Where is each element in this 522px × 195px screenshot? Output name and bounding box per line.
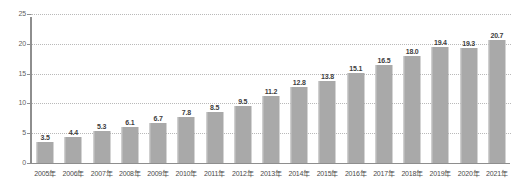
bar-value-label: 19.3 (462, 40, 475, 47)
x-axis-line (31, 163, 510, 164)
bar-group: 19.3 (455, 14, 483, 163)
bar[interactable] (65, 137, 82, 163)
x-tick-label: 2020年 (455, 168, 483, 178)
bar[interactable] (121, 127, 138, 163)
bar[interactable] (37, 142, 54, 163)
bar[interactable] (206, 112, 223, 163)
bar-value-label: 18.0 (406, 48, 419, 55)
bar-value-label: 6.1 (125, 119, 134, 126)
bar-value-label: 6.7 (153, 115, 162, 122)
bar-group: 11.2 (257, 14, 285, 163)
x-tick-label: 2016年 (342, 168, 370, 178)
bar[interactable] (432, 47, 449, 163)
bar[interactable] (488, 40, 505, 163)
x-tick-label: 2019年 (426, 168, 454, 178)
x-axis-labels: 2005年2006年2007年2008年2009年2010年2011年2012年… (31, 168, 511, 186)
bar-value-label: 13.8 (321, 73, 334, 80)
x-tick-label: 2009年 (144, 168, 172, 178)
x-tick-label: 2017年 (370, 168, 398, 178)
bars-layer: 3.54.45.36.16.77.88.59.511.212.813.815.1… (31, 14, 511, 163)
bar-group: 16.5 (370, 14, 398, 163)
bar-value-label: 11.2 (265, 88, 277, 95)
bar-value-label: 20.7 (490, 32, 503, 39)
bar-value-label: 15.1 (349, 65, 362, 72)
y-tick-label: 5 (6, 129, 26, 136)
x-tick-label: 2015年 (313, 168, 341, 178)
x-tick-label: 2021年 (483, 168, 511, 178)
x-tick-label: 2008年 (116, 168, 144, 178)
bar-group: 8.5 (200, 14, 228, 163)
bar[interactable] (262, 96, 279, 163)
bar-value-label: 7.8 (182, 109, 191, 116)
bar-value-label: 8.5 (210, 104, 219, 111)
x-tick-label: 2006年 (59, 168, 87, 178)
bar-group: 9.5 (229, 14, 257, 163)
bar[interactable] (234, 106, 251, 163)
bar-group: 5.3 (87, 14, 115, 163)
bar[interactable] (93, 131, 110, 163)
bar-value-label: 19.4 (434, 39, 447, 46)
bar-group: 6.7 (144, 14, 172, 163)
bar-value-label: 5.3 (97, 123, 106, 130)
x-tick-label: 2010年 (172, 168, 200, 178)
bar-group: 7.8 (172, 14, 200, 163)
y-tick-label: 20 (6, 40, 26, 47)
bar[interactable] (291, 87, 308, 163)
bar-group: 3.5 (31, 14, 59, 163)
x-tick-label: 2013年 (257, 168, 285, 178)
x-tick-label: 2005年 (31, 168, 59, 178)
bar-value-label: 12.8 (293, 79, 306, 86)
bar-group: 13.8 (313, 14, 341, 163)
bar[interactable] (319, 81, 336, 163)
bar[interactable] (347, 73, 364, 163)
bar-group: 19.4 (426, 14, 454, 163)
bar-group: 12.8 (285, 14, 313, 163)
x-tick-label: 2012年 (229, 168, 257, 178)
bar-chart: 0510152025 3.54.45.36.16.77.88.59.511.21… (0, 0, 522, 195)
bar-group: 15.1 (342, 14, 370, 163)
bar-group: 6.1 (116, 14, 144, 163)
bar-value-label: 4.4 (69, 129, 78, 136)
y-tick-label: 10 (6, 99, 26, 106)
bar-value-label: 3.5 (41, 134, 50, 141)
bar[interactable] (460, 48, 477, 163)
x-tick-label: 2018年 (398, 168, 426, 178)
bar-group: 18.0 (398, 14, 426, 163)
y-tick-label: 0 (6, 159, 26, 166)
bar[interactable] (375, 65, 392, 163)
x-tick-label: 2007年 (87, 168, 115, 178)
bar-value-label: 9.5 (238, 98, 247, 105)
bar-group: 20.7 (483, 14, 511, 163)
bar[interactable] (178, 117, 195, 163)
bar[interactable] (404, 56, 421, 163)
bar[interactable] (150, 123, 167, 163)
y-tick-label: 25 (6, 10, 26, 17)
y-tick-label: 15 (6, 70, 26, 77)
x-tick-label: 2011年 (200, 168, 228, 178)
x-tick-label: 2014年 (285, 168, 313, 178)
bar-group: 4.4 (59, 14, 87, 163)
bar-value-label: 16.5 (378, 57, 391, 64)
